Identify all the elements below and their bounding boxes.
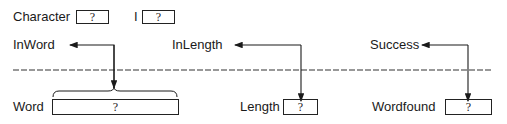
length-box: ? [283,99,318,115]
i-box: ? [142,10,175,24]
length-label: Length [240,100,280,114]
inlength-label: InLength [172,38,223,52]
inword-label: InWord [13,38,55,52]
inword-arrow [70,45,114,86]
success-label: Success [370,38,419,52]
word-box: ? [52,99,179,115]
i-label: I [134,10,138,24]
word-label: Word [13,100,44,114]
word-brace [53,87,177,97]
character-box: ? [76,10,109,24]
character-label: Character [13,10,70,24]
wordfound-label: Wordfound [372,100,435,114]
wordfound-box: ? [445,99,492,115]
